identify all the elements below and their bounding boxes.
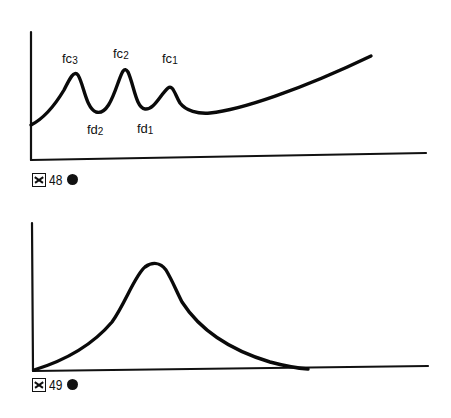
label-fc3: fc3	[62, 52, 78, 66]
figure-48-caption: 48	[32, 172, 78, 187]
label-fc2: fc2	[113, 47, 129, 61]
x-axis	[33, 366, 428, 371]
bell-curve	[34, 264, 308, 370]
bullet-icon	[67, 174, 78, 185]
figure-48: fc3 fc2 fc1 fd2 fd1 48	[0, 0, 451, 200]
figure-48-plot	[0, 0, 451, 200]
figure-number: 49	[49, 377, 62, 392]
response-curve	[31, 56, 371, 125]
figure-49: 49	[0, 200, 451, 418]
zu-kanji-glyph	[32, 173, 46, 187]
x-axis	[31, 153, 426, 160]
bullet-icon	[67, 379, 78, 390]
y-axis	[32, 223, 33, 371]
label-fd2: fd2	[87, 123, 103, 137]
zu-kanji-glyph	[32, 378, 46, 392]
figure-number: 48	[49, 172, 62, 187]
figure-49-caption: 49	[32, 377, 78, 392]
label-fd1: fd1	[137, 122, 153, 136]
label-fc1: fc1	[162, 52, 178, 66]
